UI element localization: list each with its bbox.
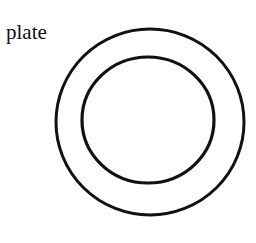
inner-well-circle: [82, 57, 214, 183]
plate-drawing: [0, 0, 256, 243]
